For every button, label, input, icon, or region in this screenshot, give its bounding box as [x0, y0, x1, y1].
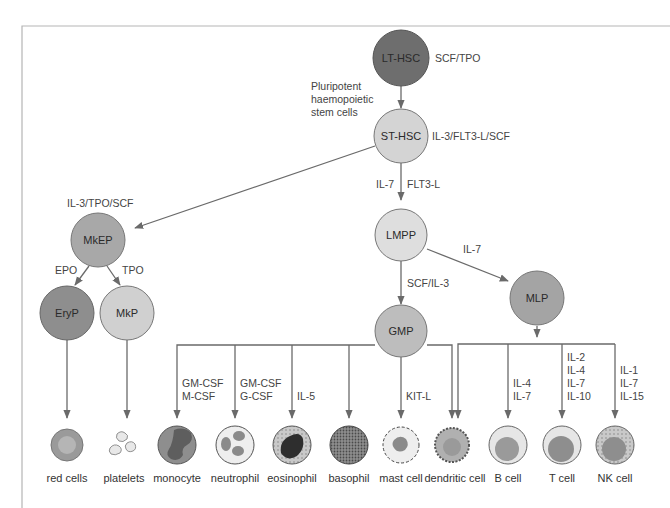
cell-label-t-cell: T cell — [549, 472, 575, 484]
cell-label-b-cell: B cell — [495, 472, 522, 484]
t-cell-factor-4: IL-10 — [567, 390, 591, 402]
node-lt-hsc: LT-HSC — [373, 30, 429, 86]
node-lmpp-label: LMPP — [386, 229, 416, 241]
node-mkep: MkEP — [71, 213, 125, 267]
mkp-factor: TPO — [122, 264, 144, 276]
node-mlp: MLP — [510, 271, 564, 325]
node-lt-hsc-label: LT-HSC — [382, 52, 420, 64]
t-cell-factor-2: IL-4 — [567, 364, 585, 376]
node-st-hsc-label: ST-HSC — [381, 130, 421, 142]
lt-hsc-factor: SCF/TPO — [435, 52, 481, 64]
cell-label-dendritic-cell: dendritic cell — [424, 472, 485, 484]
pluripotent-note-3: stem cells — [311, 106, 358, 118]
node-mlp-label: MLP — [526, 292, 549, 304]
cell-label-red-cells: red cells — [47, 472, 88, 484]
b-cell-factor-1: IL-4 — [513, 377, 531, 389]
neutrophil-icon — [216, 426, 254, 464]
node-st-hsc: ST-HSC — [374, 109, 428, 163]
st-hsc-factor: IL-3/FLT3-L/SCF — [432, 130, 510, 142]
gmp-factor: SCF/IL-3 — [407, 277, 449, 289]
lmpp-factor-left: IL-7 — [376, 178, 394, 190]
cell-label-monocyte: monocyte — [153, 472, 201, 484]
neutrophil-factor-2: G-CSF — [240, 390, 273, 402]
lineage-diagram: LT-HSC SCF/TPO Pluripotent haemopoietic … — [0, 0, 670, 508]
pluripotent-note-2: haemopoietic — [311, 93, 373, 105]
node-mkep-label: MkEP — [83, 234, 112, 246]
node-gmp: GMP — [375, 305, 427, 357]
node-gmp-label: GMP — [388, 325, 413, 337]
nk-cell-factor-1: IL-1 — [620, 364, 638, 376]
b-cell-icon — [489, 426, 527, 464]
b-cell-factor-2: IL-7 — [513, 390, 531, 402]
t-cell-factor-1: IL-2 — [567, 351, 585, 363]
mast-cell-icon — [383, 427, 419, 463]
nk-cell-factor-3: IL-15 — [620, 390, 644, 402]
monocyte-factor-1: GM-CSF — [182, 377, 223, 389]
red-cell-icon — [51, 429, 83, 461]
nk-cell-factor-2: IL-7 — [620, 377, 638, 389]
pluripotent-note-1: Pluripotent — [311, 80, 361, 92]
basophil-icon — [330, 426, 368, 464]
neutrophil-factor-1: GM-CSF — [240, 377, 281, 389]
node-lmpp: LMPP — [375, 209, 427, 261]
node-eryp: EryP — [40, 286, 94, 340]
t-cell-icon — [543, 426, 581, 464]
monocyte-icon — [158, 426, 196, 464]
cell-label-eosinophil: eosinophil — [267, 472, 317, 484]
dendritic-cell-icon — [435, 428, 469, 462]
eosinophil-icon — [273, 426, 311, 464]
t-cell-factor-3: IL-7 — [567, 377, 585, 389]
mast-cell-factor: KIT-L — [406, 390, 431, 402]
nk-cell-icon — [596, 426, 634, 464]
node-mkp-label: MkP — [116, 307, 138, 319]
lmpp-factor-right: FLT3-L — [407, 178, 440, 190]
eosinophil-factor: IL-5 — [297, 390, 315, 402]
mkep-factor: IL-3/TPO/SCF — [67, 197, 134, 209]
cell-label-platelets: platelets — [104, 472, 145, 484]
connectors — [67, 86, 615, 418]
node-mkp: MkP — [100, 286, 154, 340]
cell-label-neutrophil: neutrophil — [211, 472, 259, 484]
platelets-icon — [109, 432, 135, 455]
cell-label-nk-cell: NK cell — [598, 472, 633, 484]
eryp-factor: EPO — [55, 264, 77, 276]
mlp-factor: IL-7 — [463, 243, 481, 255]
monocyte-factor-2: M-CSF — [182, 390, 215, 402]
node-eryp-label: EryP — [55, 307, 79, 319]
cell-label-basophil: basophil — [329, 472, 370, 484]
cell-label-mast-cell: mast cell — [379, 472, 422, 484]
